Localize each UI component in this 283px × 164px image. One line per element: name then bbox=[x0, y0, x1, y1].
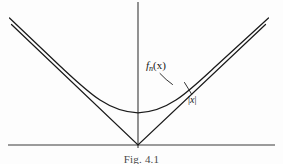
absx-right-bar: | bbox=[194, 94, 196, 105]
figure-container: fn(x) |x| Fig. 4.1 bbox=[0, 0, 283, 164]
smooth-approximation-curve bbox=[10, 18, 269, 113]
fn-label-leader-line bbox=[160, 74, 173, 85]
fn-curve-label: fn(x) bbox=[146, 60, 166, 73]
figure-caption: Fig. 4.1 bbox=[0, 153, 283, 164]
fn-label-argument: (x) bbox=[153, 59, 166, 71]
abs-value-curve-label: |x| bbox=[188, 95, 196, 105]
figure-plot-area bbox=[0, 0, 283, 164]
